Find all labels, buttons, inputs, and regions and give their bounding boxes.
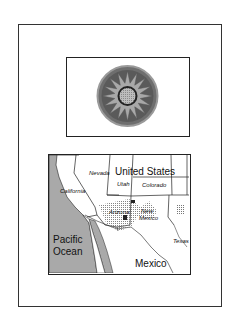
- label-california: California: [60, 188, 85, 194]
- southwest-map: United States Nevada Utah Colorado Calif…: [48, 154, 191, 275]
- label-new-mexico-2: Mexico: [139, 215, 158, 221]
- label-texas: Texas: [173, 238, 189, 244]
- medallion-panel: [66, 57, 190, 137]
- label-united-states: United States: [115, 167, 175, 177]
- label-arizona: Arizona: [109, 209, 129, 215]
- label-ocean: Ocean: [53, 247, 82, 257]
- sun-star-medallion-icon: [67, 58, 188, 135]
- label-mexico: Mexico: [135, 259, 167, 269]
- label-pacific: Pacific: [53, 235, 82, 245]
- label-new-mexico-1: New: [141, 208, 153, 214]
- label-utah: Utah: [117, 181, 130, 187]
- label-nevada: Nevada: [89, 170, 110, 176]
- label-colorado: Colorado: [142, 182, 166, 188]
